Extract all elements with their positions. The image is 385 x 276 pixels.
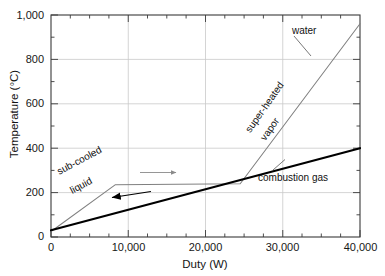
x-axis-title: Duty (W) xyxy=(150,258,260,270)
y-tick-label-800: 800 xyxy=(0,53,44,65)
annotation-water: water xyxy=(292,25,316,36)
y-tick-label-600: 600 xyxy=(0,97,44,109)
y-tick-label-1000: 1,000 xyxy=(0,9,44,21)
x-tick-label-10000: 10,000 xyxy=(104,241,153,253)
plot-canvas xyxy=(0,0,385,276)
y-tick-label-200: 200 xyxy=(0,186,44,198)
y-tick-label-400: 400 xyxy=(0,142,44,154)
annotation-combustion-gas: combustion gas xyxy=(258,172,328,183)
x-tick-label-0: 0 xyxy=(31,241,71,253)
y-axis-title: Temperature (°C) xyxy=(8,54,20,174)
x-tick-label-20000: 20,000 xyxy=(181,241,230,253)
temperature-duty-chart: 1,000 800 600 400 200 0 0 10,000 20,000 … xyxy=(0,0,385,276)
x-tick-label-40000: 40,000 xyxy=(336,241,385,253)
x-tick-label-30000: 30,000 xyxy=(258,241,307,253)
